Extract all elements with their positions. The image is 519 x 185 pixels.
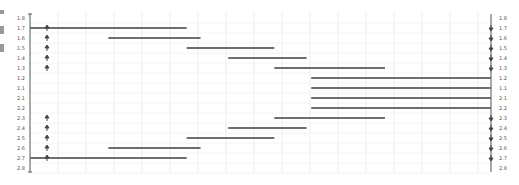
y-tick-label-left: 2.5 — [17, 135, 25, 141]
y-tick-label-right: 1.3 — [499, 65, 507, 71]
marker-left-icon — [45, 115, 49, 121]
marker-right-icon — [489, 155, 493, 161]
y-tick-label-right: 1.1 — [499, 85, 507, 91]
marker-left-icon — [45, 35, 49, 41]
marker-right-icon — [489, 145, 493, 151]
marker-left-icon — [45, 145, 49, 151]
marker-left-icon — [45, 135, 49, 141]
marker-right-icon — [489, 55, 493, 61]
y-tick-label-left: 2.6 — [17, 145, 25, 151]
marker-left-icon — [45, 125, 49, 131]
y-tick-label-left: 1.3 — [17, 65, 25, 71]
marker-right-icon — [489, 45, 493, 51]
y-tick-label-right: 2.3 — [499, 115, 507, 121]
y-tick-label-left: 2.2 — [17, 105, 25, 111]
y-tick-label-left: 2.1 — [17, 95, 25, 101]
y-tick-label-right: 1.4 — [499, 55, 507, 61]
y-tick-label-right: 1.7 — [499, 25, 507, 31]
marker-left-icon — [45, 65, 49, 71]
y-tick-label-left: 1.8 — [17, 15, 25, 21]
marker-left-icon — [45, 155, 49, 161]
marker-left-icon — [45, 25, 49, 31]
y-tick-label-left: 1.4 — [17, 55, 25, 61]
y-tick-label-right: 2.1 — [499, 95, 507, 101]
y-tick-label-left: 1.7 — [17, 25, 25, 31]
marker-right-icon — [489, 25, 493, 31]
y-tick-label-right: 2.8 — [499, 165, 507, 171]
y-tick-label-left: 2.4 — [17, 125, 25, 131]
y-tick-label-right: 1.6 — [499, 35, 507, 41]
y-tick-label-right: 1.8 — [499, 15, 507, 21]
grid-lines — [30, 12, 491, 173]
y-tick-label-left: 2.7 — [17, 155, 25, 161]
y-tick-label-right: 2.6 — [499, 145, 507, 151]
marker-left-icon — [45, 45, 49, 51]
y-tick-label-left: 1.6 — [17, 35, 25, 41]
y-tick-label-left: 2.8 — [17, 165, 25, 171]
y-axis-labels-right: 1.81.71.61.51.41.31.21.12.12.22.32.42.52… — [499, 15, 507, 171]
marker-right-icon — [489, 135, 493, 141]
y-axis-labels-left: 1.81.71.61.51.41.31.21.12.12.22.32.42.52… — [17, 15, 25, 171]
y-tick-label-left: 1.1 — [17, 85, 25, 91]
y-tick-label-right: 1.5 — [499, 45, 507, 51]
marker-right-icon — [489, 35, 493, 41]
y-tick-label-right: 1.2 — [499, 75, 507, 81]
marker-right-icon — [489, 65, 493, 71]
y-tick-label-right: 2.4 — [499, 125, 507, 131]
marker-right-icon — [489, 125, 493, 131]
gantt-chart: 1.81.71.61.51.41.31.21.12.12.22.32.42.52… — [0, 0, 519, 185]
y-tick-label-left: 2.3 — [17, 115, 25, 121]
y-tick-label-left: 1.5 — [17, 45, 25, 51]
y-tick-label-right: 2.7 — [499, 155, 507, 161]
y-tick-label-right: 2.5 — [499, 135, 507, 141]
y-tick-label-right: 2.2 — [499, 105, 507, 111]
marker-left-icon — [45, 55, 49, 61]
y-tick-label-left: 1.2 — [17, 75, 25, 81]
marker-right-icon — [489, 115, 493, 121]
